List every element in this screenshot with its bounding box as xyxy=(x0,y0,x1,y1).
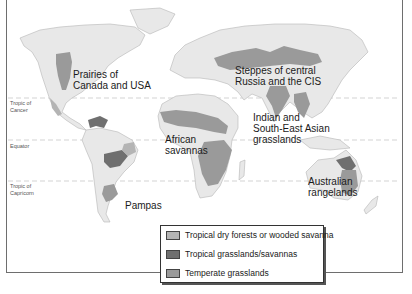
legend-swatch-temperate xyxy=(166,269,180,278)
legend-item-tropical-dry: Tropical dry forests or wooded savanna xyxy=(166,229,334,241)
tropic-of-capricorn-label-line1: Tropic of xyxy=(10,183,34,190)
label-indian-line2: South-East Asian xyxy=(253,123,330,134)
label-steppes-line2: Russia and the CIS xyxy=(235,76,321,87)
legend-item-temperate: Temperate grasslands xyxy=(166,267,269,279)
legend-swatch-tropical-dry xyxy=(166,231,180,240)
label-prairies-line1: Prairies of xyxy=(73,69,151,80)
legend-label-temperate: Temperate grasslands xyxy=(185,268,269,278)
tropic-of-cancer-label-line2: Cancer xyxy=(10,107,31,114)
equator-label: Equator xyxy=(10,143,29,150)
label-african-savannas: African savannas xyxy=(165,134,208,156)
legend-label-tropical-dry: Tropical dry forests or wooded savanna xyxy=(185,230,334,240)
legend-label-tropical-grasslands: Tropical grasslands/savannas xyxy=(185,249,297,259)
tropic-of-capricorn-label-line2: Capricorn xyxy=(10,190,34,197)
legend-item-tropical-grasslands: Tropical grasslands/savannas xyxy=(166,248,297,260)
label-prairies-line2: Canada and USA xyxy=(73,80,151,91)
label-steppes-line1: Steppes of central xyxy=(235,65,321,76)
label-australian-line1: Australian xyxy=(308,176,357,187)
tropic-of-capricorn-label: Tropic of Capricorn xyxy=(10,183,34,196)
label-australian-line2: rangelands xyxy=(308,187,357,198)
label-australian-rangelands: Australian rangelands xyxy=(308,176,357,198)
label-indian-line3: grasslands xyxy=(253,134,330,145)
label-indian-sea-grasslands: Indian and South-East Asian grasslands xyxy=(253,112,330,145)
legend-swatch-tropical-grasslands xyxy=(166,250,180,259)
label-pampas: Pampas xyxy=(125,200,162,211)
label-african-line2: savannas xyxy=(165,145,208,156)
label-steppes: Steppes of central Russia and the CIS xyxy=(235,65,321,87)
legend: Tropical dry forests or wooded savanna T… xyxy=(160,225,324,283)
label-african-line1: African xyxy=(165,134,208,145)
madagascar xyxy=(239,160,245,180)
label-prairies: Prairies of Canada and USA xyxy=(73,69,151,91)
label-indian-line1: Indian and xyxy=(253,112,330,123)
tropic-of-cancer-label: Tropic of Cancer xyxy=(10,100,31,113)
tropic-of-cancer-label-line1: Tropic of xyxy=(10,100,31,107)
new-zealand xyxy=(364,196,378,214)
region-llanos xyxy=(88,116,108,128)
